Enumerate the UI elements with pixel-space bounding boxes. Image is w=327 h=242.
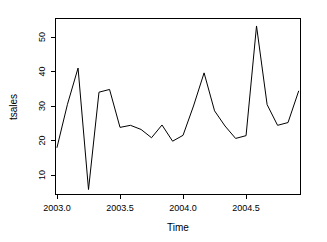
y-axis-title: tsales [8,94,19,120]
y-axis-tick-labels: 1020304050 [37,32,47,180]
y-axis-ticks [51,37,56,175]
chart-canvas: 1020304050 2003.02003.52004.02004.5 Time… [0,0,327,242]
x-tick-label: 2004.5 [232,203,260,213]
y-tick-label: 20 [37,135,47,145]
plot-frame-rect [56,19,301,195]
x-axis-ticks [57,195,246,200]
y-tick-label: 10 [37,170,47,180]
x-tick-label: 2003.0 [43,203,71,213]
y-tick-label: 50 [37,32,47,42]
y-tick-label: 40 [37,66,47,76]
plot-box-frame [56,19,301,195]
r-plot-device: 1020304050 2003.02003.52004.02004.5 Time… [0,0,327,242]
x-tick-label: 2003.5 [106,203,134,213]
x-axis-tick-labels: 2003.02003.52004.02004.5 [43,203,260,213]
x-tick-label: 2004.0 [169,203,197,213]
series-line-tsales [57,26,299,190]
y-tick-label: 30 [37,101,47,111]
x-axis-title: Time [167,222,189,233]
